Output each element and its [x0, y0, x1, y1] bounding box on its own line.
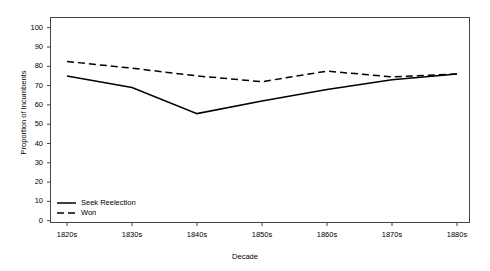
x-tick-marks [67, 223, 457, 227]
plot-frame [51, 18, 470, 223]
x-tick-label: 1840s [177, 231, 217, 239]
x-axis-title: Decade [0, 252, 490, 261]
x-tick-label: 1850s [242, 231, 282, 239]
y-tick-label: 100 [21, 24, 43, 32]
x-tick-label: 1830s [112, 231, 152, 239]
x-tick-label: 1820s [47, 231, 87, 239]
x-tick-label: 1870s [372, 231, 412, 239]
y-tick-label: 0 [21, 217, 43, 225]
y-tick-label: 10 [21, 197, 43, 205]
x-tick-label: 1860s [307, 231, 347, 239]
line-chart: 100 90 80 70 60 50 40 30 20 10 0 1820s 1… [0, 0, 490, 271]
y-axis-title: Proportion of Incumbents [19, 43, 28, 183]
x-tick-label: 1880s [437, 231, 477, 239]
series-line-seek-reelection [67, 74, 457, 114]
y-tick-marks [47, 28, 51, 221]
legend-label-seek-reelection: Seek Reelection [81, 199, 136, 207]
legend-label-won: Won [81, 209, 96, 217]
